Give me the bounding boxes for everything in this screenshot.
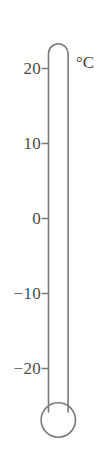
scale-label-10: 10 — [0, 135, 41, 152]
scale-label-neg20: −20 — [0, 360, 41, 377]
thermometer-bulb — [41, 403, 75, 437]
unit-label-celsius: °C — [76, 54, 94, 71]
scale-label-20: 20 — [0, 60, 41, 77]
thermometer-figure: 20 10 0 −10 −20 °C — [0, 0, 107, 453]
thermometer-tube-outline — [49, 44, 69, 412]
scale-label-neg10: −10 — [0, 285, 41, 302]
scale-label-0: 0 — [0, 210, 41, 227]
